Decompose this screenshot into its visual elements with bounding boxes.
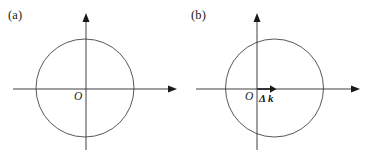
panel-a: (a) O — [0, 0, 183, 162]
figure-root: (a) O (b) O — [0, 0, 366, 162]
panel-a-origin-label: O — [74, 90, 82, 102]
panel-a-y-axis-arrowhead — [83, 13, 90, 22]
panel-b-diagram — [183, 0, 366, 162]
panel-a-label: (a) — [8, 8, 22, 23]
panel-a-fermi-circle — [36, 39, 134, 137]
panel-b-label: (b) — [191, 8, 206, 23]
panel-b-delta-k-label: Δ k — [259, 92, 274, 104]
panel-a-diagram — [0, 0, 183, 162]
panel-b-y-axis-arrowhead — [254, 13, 261, 22]
panel-b: (b) O Δ k — [183, 0, 366, 162]
panel-a-x-axis-arrowhead — [168, 85, 177, 92]
panel-b-origin-label: O — [245, 90, 253, 102]
panel-b-x-axis-arrowhead — [351, 85, 360, 92]
